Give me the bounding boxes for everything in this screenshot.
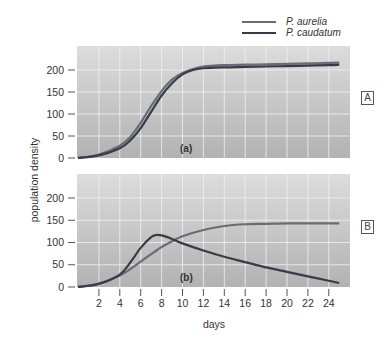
svg-text:20: 20	[281, 297, 293, 309]
svg-text:0: 0	[58, 152, 64, 164]
svg-text:18: 18	[260, 297, 272, 309]
svg-text:12: 12	[198, 297, 210, 309]
svg-text:22: 22	[302, 297, 314, 309]
svg-text:150: 150	[46, 86, 64, 98]
svg-text:8: 8	[159, 297, 165, 309]
svg-text:150: 150	[46, 214, 64, 226]
svg-text:14: 14	[218, 297, 230, 309]
svg-text:200: 200	[46, 192, 64, 204]
svg-text:4: 4	[117, 297, 123, 309]
plot-panel-a: 050100150200(a)	[46, 46, 350, 164]
svg-text:(b): (b)	[180, 272, 193, 283]
x-axis: 24681012141618202224	[96, 289, 335, 309]
svg-text:0: 0	[58, 281, 64, 293]
svg-text:100: 100	[46, 236, 64, 248]
panel-tag-b: B	[361, 220, 374, 234]
svg-text:50: 50	[52, 130, 64, 142]
svg-text:2: 2	[96, 297, 102, 309]
svg-text:24: 24	[323, 297, 335, 309]
svg-text:50: 50	[52, 258, 64, 270]
svg-text:16: 16	[239, 297, 251, 309]
panel-tag-a: A	[361, 91, 374, 105]
svg-text:(a): (a)	[180, 143, 192, 154]
plot-panel-b: 050100150200(b)	[46, 174, 350, 293]
svg-text:100: 100	[46, 108, 64, 120]
svg-text:6: 6	[138, 297, 144, 309]
y-axis-label: population density	[28, 138, 40, 223]
chart-canvas: 050100150200(a) 050100150200(b) 24681012…	[0, 0, 388, 342]
svg-text:200: 200	[46, 64, 64, 76]
svg-text:10: 10	[177, 297, 189, 309]
x-axis-label: days	[203, 318, 225, 330]
